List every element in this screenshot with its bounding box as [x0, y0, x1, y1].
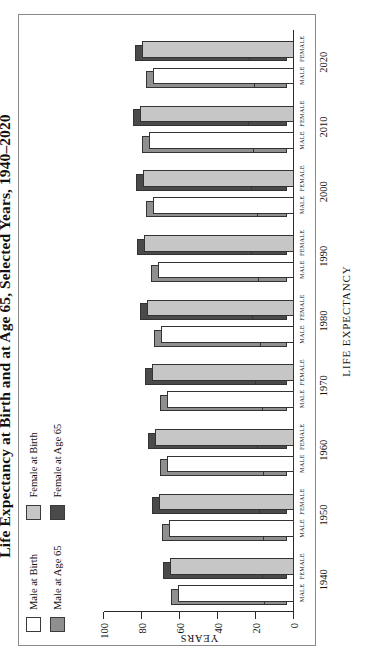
bar-slot-male	[104, 580, 294, 607]
sub-label: MALE	[298, 580, 305, 607]
sub-label: MALE	[298, 62, 305, 89]
bar-group-1960: MALEFEMALE1960	[104, 424, 294, 478]
sub-label: MALE	[298, 127, 305, 154]
sub-label: FEMALE	[298, 423, 305, 450]
sub-label-row: MALEFEMALE	[298, 553, 305, 607]
legend-label: Male at Age 65	[52, 546, 63, 610]
bar-female-at-birth	[142, 41, 294, 58]
legend-swatch-icon	[50, 505, 65, 520]
y-axis-label: 100	[99, 623, 110, 639]
bar-slot-female	[104, 36, 294, 63]
bar-slot-male	[104, 127, 294, 154]
bar-female-at-birth	[155, 429, 294, 446]
chart-legend: Male at BirthMale at Age 65Female at Bir…	[26, 424, 65, 632]
sub-label: MALE	[298, 386, 305, 413]
bar-male-at-birth	[149, 132, 294, 149]
bar-male-at-birth	[178, 585, 294, 602]
bar-female-at-birth	[152, 364, 294, 381]
bar-male-at-birth	[167, 456, 294, 473]
bar-group-2020: MALEFEMALE2020	[104, 36, 294, 90]
sub-label: FEMALE	[298, 35, 305, 62]
bar-male-at-birth	[161, 326, 294, 343]
legend-column: Male at BirthMale at Age 65	[26, 546, 65, 632]
rotated-chart-plate: Life Expectancy at Birth and at Age 65, …	[0, 0, 380, 672]
bar-slot-female	[104, 488, 294, 515]
bar-slot-female	[104, 230, 294, 257]
bar-slot-female	[104, 553, 294, 580]
sub-label: FEMALE	[298, 229, 305, 256]
y-axis-label: 60	[175, 623, 186, 634]
bar-slot-female	[104, 424, 294, 451]
bar-group-1970: MALEFEMALE1970	[104, 359, 294, 413]
bar-slot-male	[104, 62, 294, 89]
y-axis-label: 20	[251, 623, 262, 634]
bar-female-at-birth	[147, 300, 294, 317]
bar-group-2000: MALEFEMALE2000	[104, 165, 294, 219]
bar-group-2010: MALEFEMALE2010	[104, 100, 294, 154]
sub-label: FEMALE	[298, 553, 305, 580]
bar-male-at-birth	[153, 68, 294, 85]
legend-entry-male-65: Male at Age 65	[50, 546, 65, 632]
bar-male-at-birth	[169, 520, 294, 537]
sub-label-row: MALEFEMALE	[298, 100, 305, 154]
legend-entry-male-birth: Male at Birth	[26, 546, 41, 632]
bar-male-at-birth	[153, 197, 294, 214]
sub-label: FEMALE	[298, 294, 305, 321]
bar-slot-male	[104, 256, 294, 283]
legend-swatch-icon	[26, 617, 41, 632]
bar-group-1940: MALEFEMALE1940	[104, 553, 294, 607]
bar-female-at-birth	[159, 494, 294, 511]
sub-label: MALE	[298, 321, 305, 348]
sub-label-row: MALEFEMALE	[298, 165, 305, 219]
sub-label-row: MALEFEMALE	[298, 230, 305, 284]
legend-column: Female at BirthFemale at Age 65	[26, 424, 65, 520]
bar-slot-female	[104, 165, 294, 192]
sub-label-row: MALEFEMALE	[298, 294, 305, 348]
bar-slot-male	[104, 515, 294, 542]
x-axis-title: LIFE EXPECTANCY	[340, 30, 352, 612]
bar-slot-female	[104, 100, 294, 127]
legend-entry-female-65: Female at Age 65	[50, 424, 65, 520]
bar-slot-male	[104, 386, 294, 413]
sub-label: FEMALE	[298, 359, 305, 386]
sub-label: MALE	[298, 450, 305, 477]
chart-title: Life Expectancy at Birth and at Age 65, …	[0, 0, 14, 672]
chart-image: Life Expectancy at Birth and at Age 65, …	[0, 0, 380, 672]
x-axis-group-label: 1940	[318, 553, 329, 607]
plot-area: YEARS LIFE EXPECTANCY 020406080100MALEFE…	[104, 30, 294, 612]
bar-female-at-birth	[144, 235, 294, 252]
y-axis-tick	[141, 612, 142, 619]
sub-label: MALE	[298, 256, 305, 283]
x-axis-group-label: 1970	[318, 359, 329, 413]
y-axis-tick	[293, 612, 294, 619]
bar-slot-male	[104, 321, 294, 348]
bar-group-1950: MALEFEMALE1950	[104, 488, 294, 542]
sub-label: FEMALE	[298, 488, 305, 515]
sub-label: MALE	[298, 515, 305, 542]
y-axis-tick	[217, 612, 218, 619]
sub-label-row: MALEFEMALE	[298, 488, 305, 542]
legend-label: Female at Age 65	[52, 424, 63, 498]
x-axis-group-label: 1950	[318, 488, 329, 542]
y-axis-tick	[103, 612, 104, 619]
y-axis-tick	[179, 612, 180, 619]
bar-female-at-birth	[143, 170, 294, 187]
y-axis-title: YEARS	[180, 633, 218, 644]
legend-swatch-icon	[26, 505, 41, 520]
bar-female-at-birth	[170, 558, 294, 575]
legend-label: Female at Birth	[28, 432, 39, 497]
x-axis-group-label: 2010	[318, 100, 329, 154]
y-axis-line	[104, 611, 294, 612]
bar-slot-female	[104, 294, 294, 321]
x-axis-group-label: 2000	[318, 165, 329, 219]
x-axis-group-label: 1960	[318, 424, 329, 478]
bar-group-1990: MALEFEMALE1990	[104, 230, 294, 284]
y-axis-tick	[255, 612, 256, 619]
bar-male-at-birth	[167, 391, 294, 408]
sub-label: MALE	[298, 192, 305, 219]
bar-male-at-birth	[158, 262, 294, 279]
bar-slot-male	[104, 450, 294, 477]
sub-label-row: MALEFEMALE	[298, 36, 305, 90]
legend-entry-female-birth: Female at Birth	[26, 424, 41, 520]
bar-slot-male	[104, 192, 294, 219]
